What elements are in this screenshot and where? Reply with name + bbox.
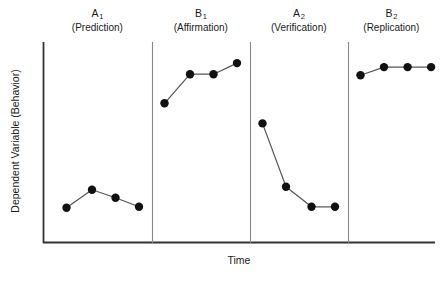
phase-label-a1: A1 (Prediction) — [42, 7, 152, 34]
phase-divider-lines — [153, 42, 349, 243]
data-point-a1-2 — [88, 186, 96, 194]
data-point-b2-4 — [427, 63, 435, 71]
phase-name-b1: B1 — [146, 7, 256, 21]
data-point-a2-2 — [282, 183, 290, 191]
phase-label-b2: B2 (Replication) — [336, 7, 446, 34]
series-b1 — [160, 59, 241, 108]
x-axis-title: Time — [43, 254, 435, 266]
data-point-b2-2 — [380, 63, 388, 71]
series-line-a2 — [263, 123, 336, 206]
data-point-a1-1 — [62, 204, 70, 212]
phase-label-b1: B1 (Affirmation) — [146, 7, 256, 34]
series-b2 — [356, 63, 435, 80]
data-point-a2-3 — [307, 203, 315, 211]
data-point-b2-3 — [403, 63, 411, 71]
phase-description-b2: (Replication) — [336, 21, 446, 34]
chart-figure: A1 (Prediction) B1 (Affirmation) A2 (Ver… — [0, 0, 447, 285]
series-a2 — [258, 119, 339, 211]
series-a1 — [62, 186, 143, 213]
phase-name-a1: A1 — [42, 7, 152, 21]
data-point-b1-1 — [160, 99, 168, 107]
axes — [43, 42, 435, 243]
data-point-b2-1 — [356, 71, 364, 79]
series-line-a1 — [67, 190, 140, 208]
chart-plot-area — [0, 0, 447, 285]
y-axis-title: Dependent Variable (Behavior) — [9, 41, 25, 241]
phase-description-b1: (Affirmation) — [146, 21, 256, 34]
data-point-a1-4 — [135, 203, 143, 211]
series-line-b2 — [361, 67, 432, 75]
series-line-b1 — [165, 63, 238, 103]
data-point-b1-3 — [209, 70, 217, 78]
phase-data-series — [62, 59, 435, 212]
phase-description-a1: (Prediction) — [42, 21, 152, 34]
data-point-a1-3 — [111, 194, 119, 202]
phase-name-b2: B2 — [336, 7, 446, 21]
data-point-a2-1 — [258, 119, 266, 127]
data-point-b1-2 — [186, 70, 194, 78]
data-point-b1-4 — [233, 59, 241, 67]
data-point-a2-4 — [331, 203, 339, 211]
